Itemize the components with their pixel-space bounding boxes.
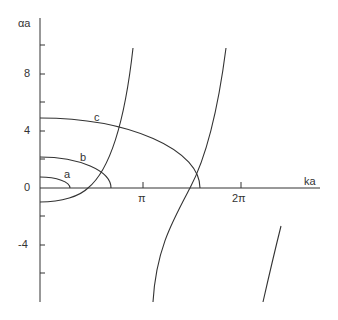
curve-branch-3 xyxy=(263,226,281,302)
curve-b xyxy=(40,157,111,188)
y-tick-label-8: 8 xyxy=(24,67,30,79)
curve-label-a: a xyxy=(64,168,71,180)
x-tick-label-pi: π xyxy=(138,192,146,204)
x-tick-label-2pi: 2π xyxy=(232,192,246,204)
curve-branch-2 xyxy=(153,48,226,302)
y-tick-label-4: 4 xyxy=(24,124,30,136)
y-tick-label-0: 0 xyxy=(24,181,30,193)
curve-branch-1 xyxy=(40,48,133,202)
x-axis-label: ka xyxy=(304,175,317,187)
y-axis-label: αa xyxy=(18,17,31,29)
y-tick-label-neg4: -4 xyxy=(18,238,28,250)
chart: αa ka 8 4 0 -4 π 2π a b c xyxy=(0,0,338,320)
curve-label-b: b xyxy=(80,151,86,163)
y-ticks xyxy=(40,45,45,273)
curve-label-c: c xyxy=(94,111,100,123)
